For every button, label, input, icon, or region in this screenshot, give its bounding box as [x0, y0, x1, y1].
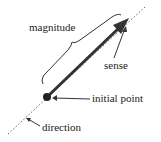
magnitude-label: magnitude — [29, 22, 75, 33]
direction-label: direction — [42, 122, 81, 133]
initial-point-pointer — [54, 98, 90, 99]
initial-point-label: initial point — [92, 93, 143, 104]
initial-point-dot — [43, 93, 51, 101]
sense-label: sense — [104, 60, 128, 71]
initial-point-pointer-head — [52, 95, 57, 101]
